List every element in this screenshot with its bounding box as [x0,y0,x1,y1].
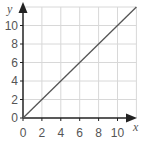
x-tick-label: 2 [39,126,46,140]
y-axis-label: y [6,2,13,16]
x-tick-label: 8 [95,126,102,140]
x-tick-label: 6 [76,126,83,140]
y-tick-label: 8 [11,37,18,51]
line-chart: 02468100246810 y x [0,0,145,146]
x-tick-label: 0 [20,126,27,140]
y-tick-label: 2 [11,93,18,107]
y-tick-label: 0 [11,111,18,125]
x-tick-label: 4 [57,126,64,140]
x-tick-label: 10 [111,126,125,140]
y-tick-label: 6 [11,56,18,70]
x-axis-label: x [132,120,139,134]
y-tick-label: 10 [5,19,19,33]
y-tick-label: 4 [11,74,18,88]
